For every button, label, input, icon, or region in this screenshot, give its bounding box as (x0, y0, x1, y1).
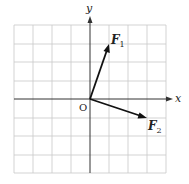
y-axis-label: y (86, 3, 92, 14)
y-axis-arrow-icon (88, 16, 93, 23)
f2-arrowhead-icon (138, 113, 148, 119)
f1-arrowhead-icon (104, 44, 110, 53)
origin-label: O (79, 103, 87, 113)
vector-f1 (90, 44, 110, 99)
x-axis-label: x (175, 93, 181, 104)
x-axis-arrow-icon (166, 97, 173, 102)
f1-label: F1 (111, 34, 125, 49)
vector-diagram (0, 0, 189, 184)
vector-f2 (90, 99, 147, 119)
f2-label: F2 (148, 120, 162, 135)
